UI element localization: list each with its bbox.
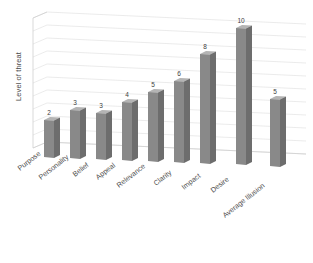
bar-group-personality: 3 xyxy=(70,99,86,159)
x-axis-label-desire: Desire xyxy=(209,175,231,195)
data-label: 3 xyxy=(73,99,77,106)
bar-group-desire: 10 xyxy=(236,17,252,165)
data-label: 2 xyxy=(47,109,51,116)
x-axis-label-average-illusion: Average Illusion xyxy=(221,181,267,220)
data-label: 5 xyxy=(273,88,277,95)
bar-group-appeal: 4 xyxy=(122,91,138,161)
data-label: 6 xyxy=(177,70,181,77)
data-label: 10 xyxy=(237,17,245,24)
data-label: 3 xyxy=(99,102,103,109)
x-axis-labels: Purpose Personality Belief Appeal Releva… xyxy=(16,149,267,220)
x-axis-label-appeal: Appeal xyxy=(94,160,117,181)
x-axis-label-relevance: Relevance xyxy=(115,162,147,190)
x-axis-label-purpose: Purpose xyxy=(16,149,43,173)
bar-group-clarity: 6 xyxy=(174,70,190,163)
x-axis-label-impact: Impact xyxy=(180,171,203,191)
data-label: 8 xyxy=(203,43,207,50)
x-axis-label-clarity: Clarity xyxy=(152,168,174,188)
bar-chart: Level of threat 2 xyxy=(0,0,313,263)
bar-group-impact: 8 xyxy=(200,43,216,164)
chart-plot-area: 2 3 3 4 5 xyxy=(0,0,313,263)
bar-group-average-illusion: 5 xyxy=(270,88,286,167)
data-label: 5 xyxy=(151,81,155,88)
bar-group-relevance: 5 xyxy=(148,81,164,162)
data-label: 4 xyxy=(125,91,129,98)
x-axis-label-belief: Belief xyxy=(71,160,91,178)
bar-group-belief: 3 xyxy=(96,102,112,160)
